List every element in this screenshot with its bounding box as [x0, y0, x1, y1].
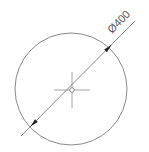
dimension-label[interactable]: Ø400: [105, 8, 133, 36]
drawing-svg: Ø400: [0, 0, 149, 152]
center-point-icon[interactable]: [70, 88, 75, 93]
cad-drawing-canvas: Ø400: [0, 0, 149, 152]
